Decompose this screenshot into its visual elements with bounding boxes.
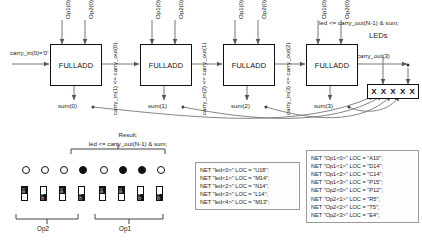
board-led-5 xyxy=(119,166,127,174)
switch-off-half: OFF xyxy=(79,194,84,201)
switch-off-half: OFF xyxy=(22,194,27,201)
board-led-6 xyxy=(138,166,146,174)
switch-off-half: OFF xyxy=(41,194,46,201)
ucf-line: NET "Op1<2>" LOC = "C14"; xyxy=(311,170,415,178)
ucf-line: NET "Op2<1>" LOC = "R5"; xyxy=(311,195,415,203)
board-led-4 xyxy=(100,166,108,174)
dip-switch-3[interactable]: ON OFF xyxy=(78,186,85,201)
switch-off-half: OFF xyxy=(100,194,105,201)
dip-switch-6[interactable]: ON OFF xyxy=(137,186,144,201)
ucf-line: NET "led<0>" LOC = "U18"; xyxy=(200,166,296,174)
dip-switch-0[interactable]: ON OFF xyxy=(21,186,28,201)
board-led-3 xyxy=(79,166,87,174)
dip-switch-1[interactable]: ON OFF xyxy=(40,186,47,201)
ucf-line: NET "Op2<3>" LOC = "E4"; xyxy=(311,211,415,219)
dip-switch-7[interactable]: ON OFF xyxy=(156,186,163,201)
ucf-line: NET "Op2<0>" LOC = "P12"; xyxy=(311,186,415,194)
dip-switch-5[interactable]: ON OFF xyxy=(118,186,125,201)
switch-off-half: OFF xyxy=(138,194,143,201)
board-led-2 xyxy=(60,166,68,174)
board-led-7 xyxy=(157,166,165,174)
ucf-operand-constraints: NET "Op1<0>" LOC = "A10"; NET "Op1<1>" L… xyxy=(306,150,419,223)
ucf-line: NET "led<3>" LOC = "L14"; xyxy=(200,190,296,198)
switch-off-half: OFF xyxy=(60,194,65,201)
ucf-led-constraints: NET "led<0>" LOC = "U18"; NET "led<1>" L… xyxy=(195,162,300,210)
switch-off-half: OFF xyxy=(119,194,124,201)
board-led-0 xyxy=(22,166,30,174)
ucf-line: NET "Op1<1>" LOC = "D14"; xyxy=(311,162,415,170)
ucf-line: NET "led<2>" LOC = "N14"; xyxy=(200,182,296,190)
board-led-1 xyxy=(41,166,49,174)
ucf-line: NET "Op1<3>" LOC = "P15"; xyxy=(311,178,415,186)
ucf-line: NET "led<4>" LOC = "M13"; xyxy=(200,198,296,206)
ucf-line: NET "led<1>" LOC = "M14"; xyxy=(200,174,296,182)
group-label-op1: Op1 xyxy=(119,225,131,232)
dip-switch-4[interactable]: ON OFF xyxy=(99,186,106,201)
group-label-op2: Op2 xyxy=(37,225,49,232)
diagram-canvas: FULLADD FULLADD FULLADD FULLADD Op1(0) O… xyxy=(0,0,422,240)
ucf-line: NET "Op2<2>" LOC = "T5"; xyxy=(311,203,415,211)
switch-off-half: OFF xyxy=(157,194,162,201)
ucf-line: NET "Op1<0>" LOC = "A10"; xyxy=(311,154,415,162)
dip-switch-2[interactable]: ON OFF xyxy=(59,186,66,201)
